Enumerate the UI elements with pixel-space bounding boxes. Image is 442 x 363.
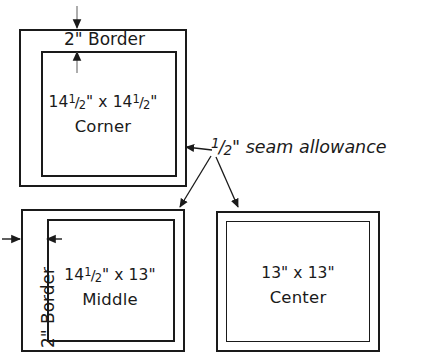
leader-to-center	[216, 157, 238, 207]
middle-border-caption: 2" Border	[40, 267, 57, 348]
corner-inner-square	[41, 51, 177, 177]
leader-to-corner	[186, 147, 212, 150]
seam-fraction: 1/2	[211, 138, 232, 155]
middle-border-caption-text: 2" Border	[38, 267, 58, 348]
quilt-block-diagram: 141/2" x 141/2" Corner 2" Border 141/2" …	[0, 0, 442, 363]
corner-block: 141/2" x 141/2" Corner	[19, 29, 187, 187]
center-block: 13" x 13" Center	[216, 211, 380, 352]
corner-border-caption-text: 2" Border	[64, 29, 145, 49]
seam-allowance-label: 1/2" seam allowance	[211, 139, 387, 157]
corner-border-caption: 2" Border	[64, 31, 145, 48]
seam-allowance-text: " seam allowance	[232, 137, 387, 157]
center-inner-square	[226, 221, 370, 342]
middle-inner-square	[47, 219, 175, 342]
